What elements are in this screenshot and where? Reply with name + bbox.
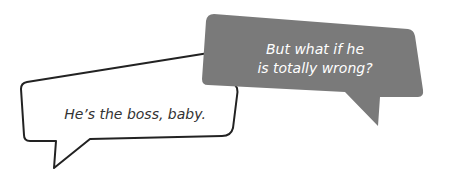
speech-bubble-illustration: He’s the boss, baby. But what if he is t… [0, 0, 450, 185]
white-bubble-text: He’s the boss, baby. [60, 105, 210, 124]
gray-bubble-text: But what if he is totally wrong? [240, 40, 390, 78]
gray-bubble-line-1: But what if he [240, 40, 390, 59]
gray-bubble-line-2: is totally wrong? [240, 59, 390, 78]
speech-bubbles-graphic [0, 0, 450, 185]
